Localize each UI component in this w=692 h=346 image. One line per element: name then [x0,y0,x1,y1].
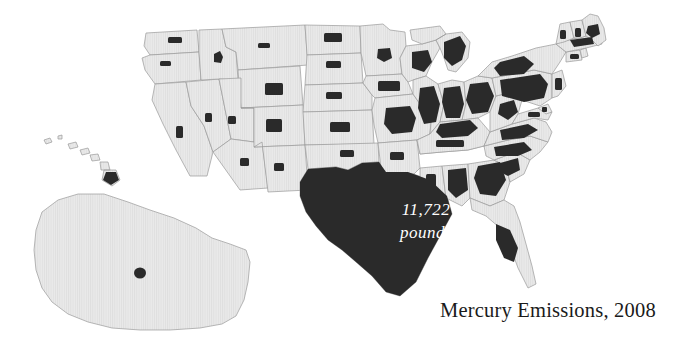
symbol-connecticut [570,54,579,59]
texas-unit-label: pounds [399,223,452,242]
map-title: Mercury Emissions, 2008 [440,299,656,322]
symbol-delaware [542,107,547,112]
symbol-new-mexico [274,163,284,171]
symbol-alaska [134,268,146,279]
symbol-oregon [160,61,171,66]
symbol-nevada [205,113,212,122]
texas-value-label: 11,722 [402,200,451,219]
symbol-wyoming [265,83,283,95]
symbol-iowa [378,81,400,91]
symbol-missouri [384,106,416,134]
symbol-arizona [240,158,249,166]
symbol-mississippi [426,174,436,190]
symbol-nebraska [326,92,342,99]
symbol-colorado [266,119,282,132]
symbol-oklahoma [340,150,354,157]
state-oregon [142,52,201,84]
symbol-north-dakota [324,33,342,42]
mercury-emissions-figure: 11,722 pounds Mercury Emissions, 2008 [0,0,692,346]
symbol-utah [228,116,236,124]
symbol-montana [258,43,270,48]
symbol-washington [168,37,182,43]
symbol-new-hampshire [575,28,581,37]
symbol-hawaii [103,172,119,185]
symbol-tennessee [436,140,464,147]
symbol-south-dakota [326,61,341,68]
symbol-vermont [560,30,566,39]
symbol-california [176,126,183,138]
state-alaska-inset [34,194,250,330]
symbol-new-jersey [555,78,562,90]
us-map-graphic: 11,722 pounds [0,0,692,346]
state-south-dakota [305,53,363,85]
symbol-maryland [528,112,540,117]
symbol-indiana [442,86,464,118]
symbol-kansas [330,122,350,132]
symbol-arkansas [390,152,404,160]
